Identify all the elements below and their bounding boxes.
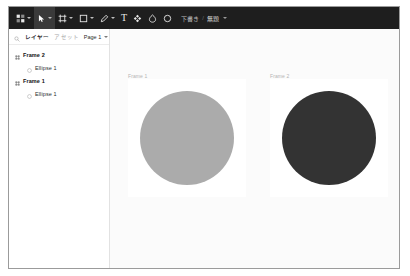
component-icon xyxy=(133,14,142,23)
app-window: T 下書き / 無題 レイヤー アセット Page 1 xyxy=(8,6,400,269)
shape-tool[interactable] xyxy=(76,7,97,29)
move-tool[interactable] xyxy=(34,7,55,29)
page-selector-label: Page 1 xyxy=(84,34,101,40)
layer-list: Frame 2Ellipse 1Frame 1Ellipse 1 xyxy=(9,45,109,268)
document-title[interactable]: 無題 xyxy=(207,14,219,23)
layer-row[interactable]: Frame 1 xyxy=(9,74,109,87)
chevron-down-icon[interactable] xyxy=(111,17,115,19)
chevron-down-icon[interactable] xyxy=(69,17,73,19)
ellipse-icon xyxy=(27,59,32,77)
layer-row-label: Frame 2 xyxy=(23,52,45,58)
app-menu-icon xyxy=(16,14,25,23)
layer-row-label: Frame 1 xyxy=(23,78,45,84)
layer-row-label: Ellipse 1 xyxy=(35,65,57,71)
tab-layers[interactable]: レイヤー xyxy=(25,33,49,41)
frame-icon xyxy=(15,72,20,90)
toolbar: T 下書き / 無題 xyxy=(9,7,399,29)
search-icon[interactable] xyxy=(14,28,20,46)
frame-icon xyxy=(15,46,20,64)
chevron-down-icon xyxy=(104,36,108,38)
main-body: レイヤー アセット Page 1 Frame 2Ellipse 1Frame 1… xyxy=(9,29,399,268)
pen-tool[interactable] xyxy=(97,7,118,29)
blob-icon xyxy=(148,14,157,23)
chevron-down-icon[interactable] xyxy=(48,17,52,19)
frame-icon xyxy=(58,14,67,23)
page-selector[interactable]: Page 1 xyxy=(84,34,108,40)
pen-icon xyxy=(100,14,109,23)
chevron-down-icon[interactable] xyxy=(90,17,94,19)
document-status-label: 下書き xyxy=(181,14,199,23)
component-tool[interactable] xyxy=(130,7,145,29)
chevron-down-icon[interactable] xyxy=(223,17,227,19)
canvas-frame[interactable] xyxy=(270,79,388,197)
cursor-icon xyxy=(37,14,46,23)
canvas-ellipse[interactable] xyxy=(140,91,234,185)
left-panel: レイヤー アセット Page 1 Frame 2Ellipse 1Frame 1… xyxy=(9,29,110,268)
canvas[interactable]: Frame 1Frame 2 xyxy=(110,29,399,268)
text-icon: T xyxy=(121,13,127,23)
layer-row[interactable]: Frame 2 xyxy=(9,48,109,61)
menu-tool[interactable] xyxy=(13,7,34,29)
chevron-down-icon[interactable] xyxy=(27,17,31,19)
layer-row[interactable]: Ellipse 1 xyxy=(9,87,109,100)
canvas-ellipse[interactable] xyxy=(282,91,376,185)
layer-row-label: Ellipse 1 xyxy=(35,91,57,97)
square-icon xyxy=(79,14,88,23)
ellipse-tool[interactable] xyxy=(160,7,175,29)
text-tool[interactable]: T xyxy=(118,7,130,29)
ellipse-icon xyxy=(163,14,172,23)
layer-row[interactable]: Ellipse 1 xyxy=(9,61,109,74)
frame-tool[interactable] xyxy=(55,7,76,29)
document-separator: / xyxy=(202,15,204,21)
tool-group: T xyxy=(13,7,175,29)
tab-assets[interactable]: アセット xyxy=(54,33,78,41)
shape-filled[interactable] xyxy=(145,7,160,29)
canvas-frame[interactable] xyxy=(128,79,246,197)
ellipse-icon xyxy=(27,85,32,103)
panel-tab-bar: レイヤー アセット Page 1 xyxy=(9,29,109,45)
